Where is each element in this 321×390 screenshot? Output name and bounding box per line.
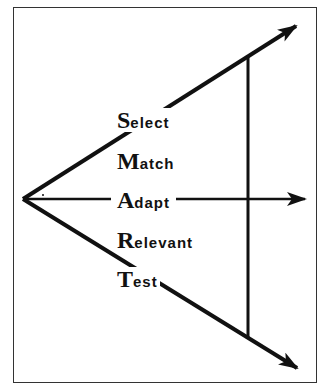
initial-letter: R — [117, 227, 134, 253]
initial-letter: T — [117, 266, 133, 292]
initial-letter: S — [117, 107, 130, 133]
word-rest: elect — [130, 114, 169, 131]
label-test: Test — [115, 267, 160, 291]
label-relevant: Relevant — [115, 228, 195, 252]
lower-arrow — [23, 199, 297, 368]
initial-letter: M — [117, 148, 140, 174]
label-match: Match — [115, 149, 177, 173]
apex-dot — [42, 194, 44, 196]
label-select: Select — [115, 108, 172, 132]
word-rest: atch — [140, 155, 175, 172]
word-rest: est — [133, 273, 158, 290]
word-rest: elevant — [134, 234, 193, 251]
initial-letter: A — [117, 187, 134, 213]
word-rest: dapt — [134, 194, 170, 211]
label-adapt: Adapt — [111, 188, 176, 212]
